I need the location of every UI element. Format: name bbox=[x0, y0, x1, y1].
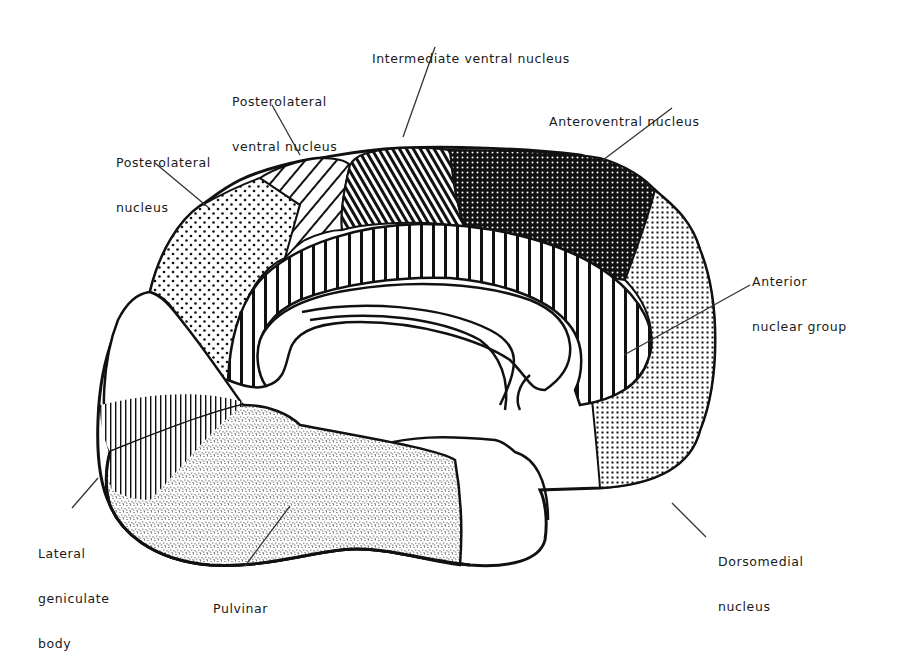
label-anteroventral-nucleus: Anteroventral nucleus bbox=[549, 84, 700, 159]
region-intermediate-ventral-nucleus bbox=[342, 148, 465, 230]
label-pulvinar: Pulvinar bbox=[213, 571, 268, 646]
label-anterior-nuclear-group: Anterior nuclear group bbox=[752, 244, 847, 364]
leader-dorsomedial bbox=[672, 503, 706, 537]
label-posterolateral-nucleus: Posterolateral nucleus bbox=[116, 125, 211, 245]
leader-lateral-geniculate bbox=[72, 478, 98, 508]
label-lateral-geniculate-body: Lateral geniculate body bbox=[38, 516, 110, 655]
label-intermediate-ventral-nucleus: Intermediate ventral nucleus bbox=[372, 21, 570, 96]
label-posterolateral-ventral-nucleus: Posterolateral ventral nucleus bbox=[232, 64, 337, 184]
label-dorsomedial-nucleus: Dorsomedial nucleus bbox=[718, 524, 804, 644]
